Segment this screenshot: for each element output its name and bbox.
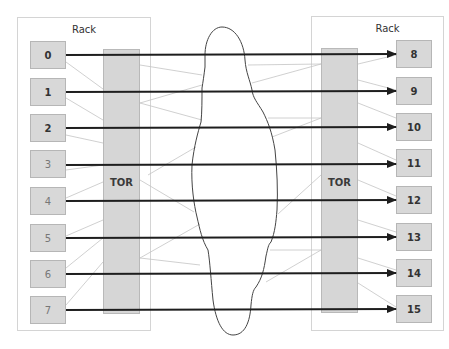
left-node-tor-links (66, 62, 103, 305)
right-tor-node-links (358, 55, 396, 307)
right-cloud-tor-links (248, 64, 321, 282)
cloud-icon (192, 27, 278, 335)
links-overlay (0, 0, 449, 349)
arrow-3-to-11 (66, 164, 396, 165)
arrow-2-to-10 (66, 127, 396, 128)
arrow-4-to-12 (66, 200, 396, 201)
arrow-1-to-9 (66, 91, 396, 92)
arrow-7-to-15 (66, 309, 396, 310)
arrow-6-to-14 (66, 273, 396, 274)
node-arrows (66, 54, 396, 310)
arrow-5-to-13 (66, 237, 396, 238)
arrow-0-to-8 (66, 54, 396, 55)
network-diagram: Rack TOR 0 1 2 3 4 5 6 7 Rack TOR 8 9 10… (0, 0, 449, 349)
